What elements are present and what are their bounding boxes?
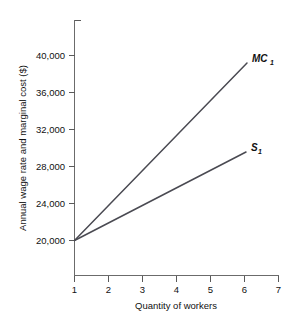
y-tick-label-24000: 24,000 <box>36 198 65 209</box>
y-tick-label-36000: 36,000 <box>36 87 65 98</box>
series-label-s1-main: S <box>251 142 258 153</box>
x-tick-label-1: 1 <box>72 284 77 295</box>
chart-container: 40,000 36,000 32,000 28,000 24,000 20,00… <box>0 0 292 324</box>
y-tick-label-28000: 28,000 <box>36 161 65 172</box>
y-axis-title: Annual wage rate and marginal cost ($) <box>17 65 28 231</box>
x-tick-label-6: 6 <box>242 284 247 295</box>
x-tick-label-7: 7 <box>276 284 281 295</box>
series-label-mc1-main: MC <box>252 53 268 64</box>
x-tick-label-5: 5 <box>208 284 213 295</box>
series-label-s1-subscript: 1 <box>258 148 262 155</box>
x-tick-label-4: 4 <box>174 284 179 295</box>
x-tick-label-2: 2 <box>106 284 111 295</box>
y-tick-label-40000: 40,000 <box>36 50 65 61</box>
x-tick-label-3: 3 <box>140 284 145 295</box>
y-tick-label-20000: 20,000 <box>36 235 65 246</box>
line-chart: 40,000 36,000 32,000 28,000 24,000 20,00… <box>0 0 292 324</box>
x-axis-title: Quantity of workers <box>135 300 217 311</box>
y-tick-label-32000: 32,000 <box>36 124 65 135</box>
series-label-mc1-subscript: 1 <box>270 59 274 66</box>
